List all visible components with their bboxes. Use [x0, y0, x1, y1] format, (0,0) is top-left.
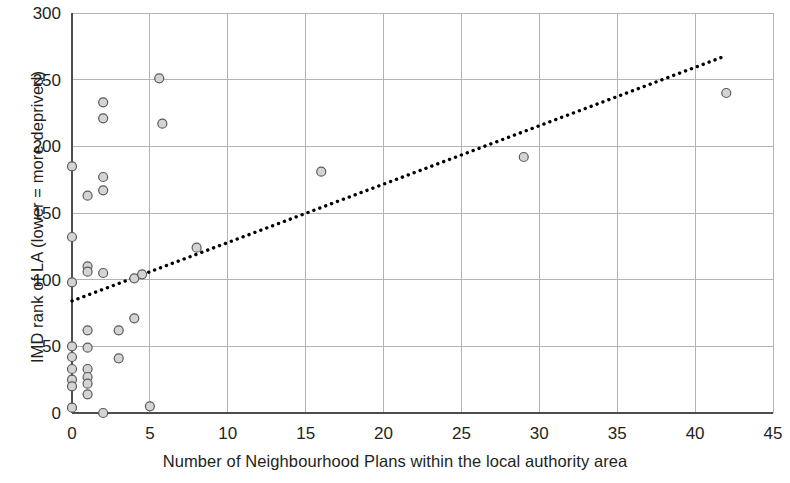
trendline-path: [72, 56, 726, 301]
x-tick-label: 5: [145, 424, 154, 443]
x-tick-label: 20: [374, 424, 393, 443]
data-point-marker: [83, 326, 92, 335]
data-point-marker: [99, 173, 108, 182]
data-point-marker: [99, 186, 108, 195]
chart-canvas: 051015202530354045050100150200250300: [0, 0, 790, 483]
x-tick-label: 45: [764, 424, 783, 443]
x-tick-label: 25: [452, 424, 471, 443]
data-point-marker: [83, 267, 92, 276]
x-tick-label: 10: [218, 424, 237, 443]
data-point-marker: [158, 119, 167, 128]
y-axis-title: IMD rank of LA (lower = more deprived): [28, 0, 47, 437]
data-point-marker: [68, 162, 77, 171]
x-tick-label: 15: [296, 424, 315, 443]
data-point-marker: [68, 382, 77, 391]
data-point-marker: [68, 233, 77, 242]
data-point-marker: [68, 365, 77, 374]
y-tick-label: 0: [52, 404, 61, 423]
data-point-marker: [99, 269, 108, 278]
x-tick-label: 40: [686, 424, 705, 443]
data-point-marker: [99, 409, 108, 418]
data-point-marker: [83, 390, 92, 399]
data-point-marker: [722, 89, 731, 98]
data-point-marker: [145, 402, 154, 411]
data-point-marker: [138, 270, 147, 279]
y-axis-title-container: IMD rank of LA (lower = more deprived): [28, 0, 52, 437]
data-point-marker: [114, 354, 123, 363]
data-point-marker: [68, 403, 77, 412]
data-point-marker: [68, 278, 77, 287]
data-point-marker: [130, 314, 139, 323]
data-point-marker: [317, 167, 326, 176]
data-point-marker: [83, 343, 92, 352]
data-point-marker: [83, 379, 92, 388]
x-tick-label: 35: [608, 424, 627, 443]
data-point-marker: [114, 326, 123, 335]
data-points-group: [68, 74, 731, 418]
trendline: [72, 56, 726, 301]
x-tick-label: 30: [530, 424, 549, 443]
data-point-marker: [192, 243, 201, 252]
x-tick-label: 0: [67, 424, 76, 443]
data-point-marker: [68, 353, 77, 362]
x-axis-title: Number of Neighbourhood Plans within the…: [0, 452, 790, 471]
data-point-marker: [83, 191, 92, 200]
scatter-chart-figure: 051015202530354045050100150200250300 IMD…: [0, 0, 790, 483]
gridlines-group: [72, 13, 773, 413]
data-point-marker: [155, 74, 164, 83]
data-point-marker: [68, 342, 77, 351]
tick-labels-group: 051015202530354045050100150200250300: [33, 4, 783, 443]
data-point-marker: [99, 114, 108, 123]
data-point-marker: [99, 98, 108, 107]
data-point-marker: [519, 153, 528, 162]
